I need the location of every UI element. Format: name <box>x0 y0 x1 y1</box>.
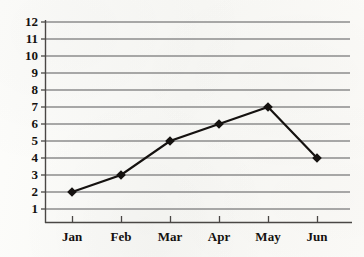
plot-area <box>0 0 364 257</box>
line-chart: 12 11 10 9 8 7 6 5 4 3 2 1 Jan Feb Mar A… <box>0 0 364 257</box>
x-tick-label-may: May <box>245 230 291 243</box>
x-tick-label-jun: Jun <box>294 230 340 243</box>
y-tick-label-8: 8 <box>8 83 38 96</box>
x-tick-label-feb: Feb <box>98 230 144 243</box>
y-tick-label-7: 7 <box>8 100 38 113</box>
y-tick-label-1: 1 <box>8 202 38 215</box>
x-tick-label-jan: Jan <box>49 230 95 243</box>
y-tick-label-6: 6 <box>8 117 38 130</box>
y-tick-label-10: 10 <box>8 49 38 62</box>
data-point-apr <box>214 119 224 129</box>
y-tick-label-2: 2 <box>8 185 38 198</box>
x-tick-label-mar: Mar <box>147 230 193 243</box>
y-tick-label-11: 11 <box>8 32 38 45</box>
data-point-markers <box>67 102 322 197</box>
x-tick-label-apr: Apr <box>196 230 242 243</box>
y-tick-label-4: 4 <box>8 151 38 164</box>
y-tick-label-5: 5 <box>8 134 38 147</box>
data-point-jan <box>67 187 77 197</box>
y-axis-ticks <box>41 22 45 209</box>
gridlines <box>45 22 350 209</box>
y-tick-label-9: 9 <box>8 66 38 79</box>
data-line-series-1 <box>72 107 317 192</box>
y-tick-label-3: 3 <box>8 168 38 181</box>
y-tick-label-12: 12 <box>8 15 38 28</box>
x-axis-ticks <box>73 216 318 222</box>
